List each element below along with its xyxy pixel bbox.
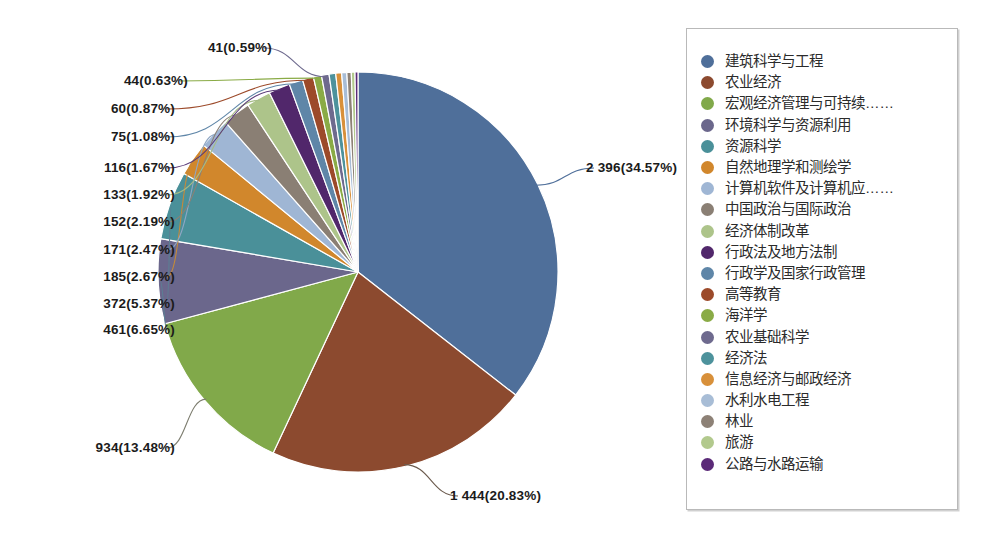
pie-value-label: 1 444(20.83%) [450,488,541,503]
legend-item-label: 信息经济与邮政经济 [725,369,851,390]
legend-color-swatch [701,182,714,195]
legend-item-label: 行政法及地方法制 [725,242,837,263]
legend-color-swatch [701,140,714,153]
legend-item-label: 行政学及国家行政管理 [725,263,865,284]
pie-value-label: 133(1.92%) [103,187,175,202]
legend-item[interactable]: 林业 [701,411,951,432]
legend-item-label: 海洋学 [725,305,767,326]
legend-item-label: 自然地理学和测绘学 [725,157,851,178]
legend-item[interactable]: 旅游 [701,432,951,453]
legend-item-label: 经济法 [725,348,767,369]
legend-item[interactable]: 经济法 [701,348,951,369]
legend-item[interactable]: 计算机软件及计算机应…… [701,178,951,199]
legend-item[interactable]: 行政学及国家行政管理 [701,263,951,284]
legend-color-swatch [701,76,714,89]
pie-value-label: 461(6.65%) [103,322,175,337]
pie-value-label: 44(0.63%) [124,73,188,88]
legend-color-swatch [701,331,714,344]
legend-color-swatch [701,203,714,216]
legend-color-swatch [701,246,714,259]
legend-color-swatch [701,373,714,386]
legend-color-swatch [701,309,714,322]
legend-item[interactable]: 农业基础科学 [701,326,951,347]
legend-item-label: 旅游 [725,432,753,453]
pie-value-label: 41(0.59%) [208,40,272,55]
legend-color-swatch [701,458,714,471]
legend-item[interactable]: 中国政治与国际政治 [701,199,951,220]
pie-chart-figure: 2 396(34.57%)1 444(20.83%)934(13.48%)461… [0,0,986,541]
pie-value-label: 171(2.47%) [103,242,175,257]
legend-item[interactable]: 建筑科学与工程 [701,51,951,72]
label-leader-line [264,48,326,77]
legend-item-label: 林业 [725,411,753,432]
legend-item-label: 农业经济 [725,72,781,93]
legend-item-label: 宏观经济管理与可持续…… [725,93,894,114]
legend-color-swatch [701,55,714,68]
legend-color-swatch [701,394,714,407]
pie-value-label: 60(0.87%) [111,101,175,116]
pie-value-label: 116(1.67%) [104,160,175,175]
pie-value-label: 934(13.48%) [95,440,175,455]
legend-item[interactable]: 高等教育 [701,284,951,305]
legend-color-swatch [701,161,714,174]
chart-legend: 建筑科学与工程农业经济宏观经济管理与可持续……环境科学与资源利用资源科学自然地理… [686,28,958,510]
legend-item[interactable]: 信息经济与邮政经济 [701,369,951,390]
pie-value-label: 185(2.67%) [103,269,175,284]
legend-item[interactable]: 宏观经济管理与可持续…… [701,93,951,114]
legend-item[interactable]: 水利水电工程 [701,390,951,411]
legend-item-label: 经济体制改革 [725,221,809,242]
legend-item-label: 水利水电工程 [725,390,809,411]
legend-item[interactable]: 自然地理学和测绘学 [701,157,951,178]
legend-item[interactable]: 农业经济 [701,72,951,93]
legend-item-list: 建筑科学与工程农业经济宏观经济管理与可持续……环境科学与资源利用资源科学自然地理… [701,51,951,475]
legend-color-swatch [701,225,714,238]
legend-item-label: 计算机软件及计算机应…… [725,178,894,199]
legend-item[interactable]: 资源科学 [701,136,951,157]
legend-item-label: 公路与水路运输 [725,454,823,475]
legend-item-label: 高等教育 [725,284,781,305]
legend-item-label: 农业基础科学 [725,327,809,348]
pie-slices-group [158,72,558,472]
legend-item[interactable]: 经济体制改革 [701,221,951,242]
legend-item[interactable]: 公路与水路运输 [701,454,951,475]
legend-color-swatch [701,352,714,365]
legend-item[interactable]: 行政法及地方法制 [701,242,951,263]
legend-color-swatch [701,119,714,132]
legend-item-label: 资源科学 [725,136,781,157]
legend-item-label: 环境科学与资源利用 [725,115,851,136]
legend-item[interactable]: 环境科学与资源利用 [701,115,951,136]
legend-color-swatch [701,415,714,428]
legend-color-swatch [701,97,714,110]
legend-item-label: 中国政治与国际政治 [725,199,851,220]
pie-value-label: 2 396(34.57%) [586,160,677,175]
pie-value-label: 75(1.08%) [111,129,175,144]
legend-color-swatch [701,267,714,280]
legend-color-swatch [701,288,714,301]
legend-item[interactable]: 海洋学 [701,305,951,326]
pie-value-label: 152(2.19%) [103,214,175,229]
legend-color-swatch [701,436,714,449]
pie-value-label: 372(5.37%) [103,296,175,311]
legend-item-label: 建筑科学与工程 [725,51,823,72]
